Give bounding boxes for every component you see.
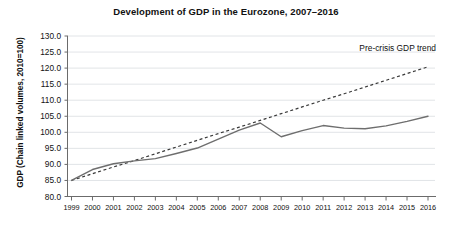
x-tick-label: 2010 [294,203,310,212]
y-tick-label: 130.0 [40,31,61,41]
y-tick-label: 105.0 [40,111,61,121]
x-tick-label: 2004 [168,203,184,212]
x-tick-label: 2006 [210,203,226,212]
y-tick-label: 110.0 [41,95,62,105]
x-tick-label: 1999 [63,203,79,212]
y-tick-label: 125.0 [40,47,61,57]
y-tick-label: 90.0 [45,159,62,169]
x-tick-label: 2005 [189,203,205,212]
x-tick-label: 2013 [357,203,373,212]
trend-annotation-label: Pre-crisis GDP trend [359,43,436,53]
x-tick-label: 2014 [378,203,394,212]
x-axis-tick-labels: 1999200020012002200320042005200620072008… [63,203,436,212]
x-tick-label: 2000 [84,203,100,212]
x-tick-label: 2008 [252,203,268,212]
y-tick-label: 120.0 [40,63,61,73]
y-tick-label: 80.0 [45,192,62,202]
x-tick-label: 2015 [399,203,415,212]
y-axis-tick-labels: 130.0125.0120.0115.0110.0105.0100.095.09… [40,31,61,202]
x-tick-label: 2002 [126,203,142,212]
x-tick-label: 2016 [420,203,436,212]
y-tick-label: 115.0 [41,79,62,89]
x-tick-label: 2011 [315,203,331,212]
x-tick-label: 2009 [273,203,289,212]
y-tick-label: 95.0 [45,143,62,153]
gdp-eurozone-chart: Development of GDP in the Eurozone, 2007… [0,0,452,229]
x-tick-label: 2007 [231,203,247,212]
x-axis-tick-marks [72,197,429,201]
x-tick-label: 2003 [147,203,163,212]
y-tick-label: 100.0 [40,127,61,137]
plot-area: 130.0125.0120.0115.0110.0105.0100.095.09… [0,0,452,229]
y-tick-label: 85.0 [45,175,62,185]
gridlines [68,36,435,180]
x-tick-label: 2001 [105,203,121,212]
x-tick-label: 2012 [336,203,352,212]
